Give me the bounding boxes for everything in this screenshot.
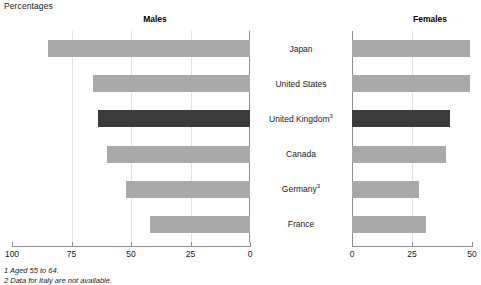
- axis-tick-label-females-25: 25: [407, 249, 416, 259]
- plot-panel-males: [12, 31, 250, 246]
- category-cell: Japan: [250, 31, 352, 66]
- axis-tick-females-25: [412, 242, 413, 247]
- bar-males-united-states[interactable]: [93, 75, 250, 92]
- bar-row: [12, 66, 250, 101]
- bar-row: [12, 137, 250, 172]
- bar-row: [352, 66, 472, 101]
- category-label-united-kingdom: United Kingdom3: [269, 114, 333, 124]
- bar-females-canada[interactable]: [352, 146, 446, 163]
- bar-females-united-kingdom[interactable]: [352, 110, 450, 127]
- panel-heading-females: Females: [375, 14, 481, 24]
- axis-tick-label-males-0: 0: [248, 249, 253, 259]
- category-label-canada: Canada: [286, 149, 316, 159]
- bar-row: [352, 172, 472, 207]
- category-label-france: France: [288, 219, 314, 229]
- axis-tick-label-males-100: 100: [5, 249, 19, 259]
- bar-females-united-states[interactable]: [352, 75, 470, 92]
- bar-row: [12, 207, 250, 242]
- axis-tick-label-males-25: 25: [186, 249, 195, 259]
- axis-tick-label-males-50: 50: [126, 249, 135, 259]
- bar-row: [352, 31, 472, 66]
- bar-males-france[interactable]: [150, 216, 250, 233]
- x-axis-males: 1007550250: [12, 246, 250, 262]
- axis-tick-males-25: [191, 242, 192, 247]
- category-cell: Germany3: [250, 172, 352, 207]
- bar-row: [352, 101, 472, 136]
- bar-females-japan[interactable]: [352, 40, 470, 57]
- axis-tick-label-males-75: 75: [67, 249, 76, 259]
- bar-row: [12, 101, 250, 136]
- category-cell: France: [250, 207, 352, 242]
- axis-tick-males-100: [12, 242, 13, 247]
- axis-tick-males-50: [131, 242, 132, 247]
- bar-females-germany[interactable]: [352, 181, 419, 198]
- bar-row: [352, 137, 472, 172]
- axis-tick-females-0: [352, 242, 353, 247]
- footnote-1: 1 Aged 55 to 64.: [4, 266, 324, 276]
- category-cell: Canada: [250, 137, 352, 172]
- footnote-list: 1 Aged 55 to 64.2 Data for Italy are not…: [4, 266, 324, 285]
- bar-males-canada[interactable]: [107, 146, 250, 163]
- category-label-japan: Japan: [289, 44, 312, 54]
- category-label-united-states: United States: [275, 79, 326, 89]
- category-label-germany: Germany3: [282, 184, 320, 194]
- category-label-column: JapanUnited StatesUnited Kingdom3CanadaG…: [250, 31, 352, 242]
- axis-tick-females-50: [472, 242, 473, 247]
- plot-area-males: [12, 31, 250, 242]
- footnote-marker: 3: [317, 183, 320, 189]
- axis-tick-males-75: [72, 242, 73, 247]
- bar-row: [12, 31, 250, 66]
- bar-males-united-kingdom[interactable]: [98, 110, 250, 127]
- axis-tick-males-0: [250, 242, 251, 247]
- axis-tick-label-females-50: 50: [467, 249, 476, 259]
- bar-row: [352, 207, 472, 242]
- unit-label: Percentages: [4, 1, 53, 11]
- bar-females-france[interactable]: [352, 216, 426, 233]
- bar-males-japan[interactable]: [48, 40, 250, 57]
- plot-area-females: [352, 31, 472, 242]
- x-axis-females: 02550: [352, 246, 472, 262]
- bar-row: [12, 172, 250, 207]
- category-cell: United States: [250, 66, 352, 101]
- panel-heading-males: Males: [100, 14, 210, 24]
- bar-males-germany[interactable]: [126, 181, 250, 198]
- footnote-marker: 3: [330, 113, 333, 119]
- category-cell: United Kingdom3: [250, 101, 352, 136]
- footnote-2: 2 Data for Italy are not available.: [4, 276, 324, 285]
- axis-tick-label-females-0: 0: [350, 249, 355, 259]
- plot-panel-females: [352, 31, 472, 246]
